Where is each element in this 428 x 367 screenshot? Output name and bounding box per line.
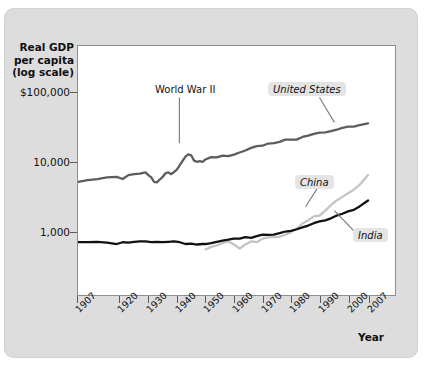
series-lines (78, 46, 395, 295)
series-label-india: India (353, 228, 388, 242)
annotation-world-war-ii: World War II (155, 84, 215, 95)
y-axis-title-line-3: (log scale) (8, 66, 74, 79)
x-axis-title: Year (358, 331, 384, 343)
leader-line-united-states (319, 98, 334, 123)
series-label-united-states: United States (268, 82, 346, 96)
y-axis-title: Real GDP per capita (log scale) (8, 41, 74, 79)
series-line-united-states (78, 123, 368, 182)
y-axis-title-line-1: Real GDP (8, 41, 74, 54)
series-label-china: China (295, 175, 334, 189)
y-tick-label-10000: 10,000 (4, 156, 70, 168)
chart-figure: Real GDP per capita (log scale) $100,000… (0, 0, 428, 367)
series-line-india (78, 200, 368, 244)
y-tick-label-100000: $100,000 (4, 86, 70, 98)
y-tick-label-1000: 1,000 (4, 226, 70, 238)
plot-area (77, 45, 396, 296)
y-axis-title-line-2: per capita (8, 54, 74, 67)
